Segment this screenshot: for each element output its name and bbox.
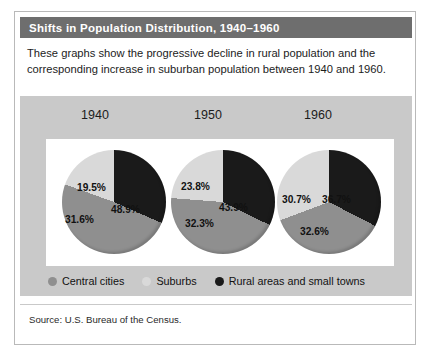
slice-label-suburbs-1940: 19.5% bbox=[77, 182, 106, 193]
page-title: Shifts in Population Distribution, 1940–… bbox=[20, 22, 280, 34]
legend-label-central-cities: Central cities bbox=[62, 275, 124, 287]
slice-label-central-cities-1960: 36.7% bbox=[322, 194, 351, 205]
legend-item-rural: Rural areas and small towns bbox=[215, 275, 365, 287]
pie-chart-1940: 48.9% 19.5% 31.6% bbox=[59, 148, 169, 258]
legend-swatch-central-cities-icon bbox=[48, 277, 57, 286]
slice-label-rural-1940: 31.6% bbox=[65, 214, 94, 225]
legend-swatch-rural-icon bbox=[215, 277, 224, 286]
year-label-1950: 1950 bbox=[163, 108, 253, 122]
slice-label-central-cities-1950: 43.9% bbox=[219, 202, 248, 213]
chart-panel: 1940 1950 1960 48.9% 19.5% 31.6% 43.9% 2… bbox=[20, 96, 412, 296]
source-divider bbox=[20, 304, 412, 305]
pie-wedges-1940 bbox=[62, 150, 166, 254]
year-label-1940: 1940 bbox=[50, 108, 140, 122]
legend-item-central-cities: Central cities bbox=[48, 275, 124, 287]
legend-swatch-suburbs-icon bbox=[142, 277, 151, 286]
pie-chart-1950: 43.9% 23.8% 32.3% bbox=[168, 148, 278, 258]
source-section: Source: U.S. Bureau of the Census. bbox=[20, 304, 412, 340]
slice-label-rural-1950: 32.3% bbox=[185, 218, 214, 229]
legend-label-suburbs: Suburbs bbox=[156, 275, 196, 287]
slice-label-central-cities-1940: 48.9% bbox=[111, 204, 140, 215]
figure-card: Shifts in Population Distribution, 1940–… bbox=[14, 11, 416, 345]
slice-label-rural-1960: 32.6% bbox=[300, 226, 329, 237]
pie-chart-1960: 36.7% 30.7% 32.6% bbox=[274, 148, 384, 258]
pie-chart-plot-area: 48.9% 19.5% 31.6% 43.9% 23.8% 32.3% 36.7… bbox=[46, 139, 394, 266]
source-text: Source: U.S. Bureau of the Census. bbox=[29, 314, 182, 325]
year-labels-row: 1940 1950 1960 bbox=[20, 108, 412, 128]
chart-legend: Central cities Suburbs Rural areas and s… bbox=[20, 272, 412, 290]
figure-title-bar: Shifts in Population Distribution, 1940–… bbox=[20, 17, 412, 38]
slice-label-suburbs-1950: 23.8% bbox=[181, 181, 210, 192]
legend-label-rural: Rural areas and small towns bbox=[229, 275, 365, 287]
year-label-1960: 1960 bbox=[273, 108, 363, 122]
legend-item-suburbs: Suburbs bbox=[142, 275, 196, 287]
figure-description: These graphs show the progressive declin… bbox=[27, 45, 405, 77]
slice-label-suburbs-1960: 30.7% bbox=[282, 194, 311, 205]
